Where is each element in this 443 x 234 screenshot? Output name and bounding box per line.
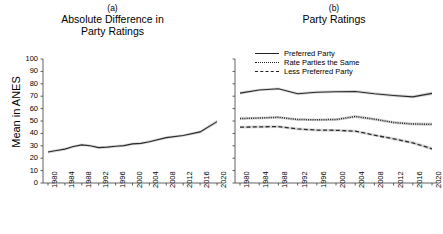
figure-root: (a) Absolute Difference in Party Ratings…	[0, 0, 443, 234]
panel-a: (a) Absolute Difference in Party Ratings…	[0, 0, 225, 234]
panel-b-plot	[225, 0, 443, 234]
panel-b: (b) Party Ratings Preferred PartyRate Pa…	[225, 0, 443, 234]
panel-a-plot	[0, 0, 225, 234]
